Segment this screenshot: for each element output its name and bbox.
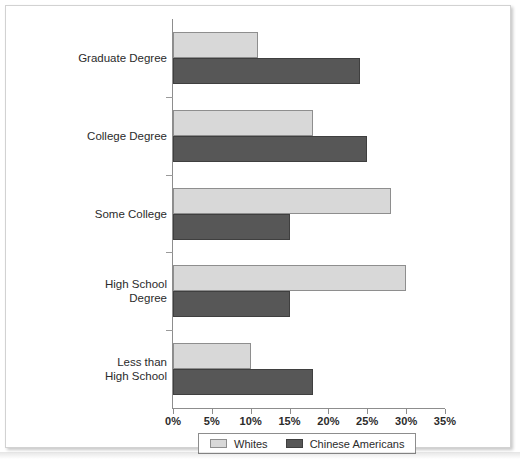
category-label: Graduate Degree xyxy=(78,51,167,65)
bar-whites xyxy=(173,110,313,136)
y-axis-tick xyxy=(166,252,173,253)
x-axis-tick-label: 25% xyxy=(356,415,378,427)
chart-legend: Whites Chinese Americans xyxy=(198,433,416,454)
x-axis-tick-label: 30% xyxy=(395,415,417,427)
legend-label-whites: Whites xyxy=(234,438,268,450)
x-axis-tick xyxy=(173,409,174,414)
bar-whites xyxy=(173,188,391,214)
x-axis-tick xyxy=(328,409,329,414)
bar-whites xyxy=(173,32,258,58)
x-axis-line xyxy=(172,408,445,409)
bar-chinese-americans xyxy=(173,58,360,84)
x-axis-tick xyxy=(406,409,407,414)
bar-chart: 0%5%10%15%20%25%30%35% Graduate DegreeCo… xyxy=(6,6,512,449)
x-axis-tick-label: 10% xyxy=(240,415,262,427)
category-label: Some College xyxy=(95,207,167,221)
x-axis-tick-label: 0% xyxy=(165,415,181,427)
legend-entry-chinese-americans[interactable]: Chinese Americans xyxy=(286,438,405,450)
x-axis-tick-label: 15% xyxy=(278,415,300,427)
legend-label-chinese-americans: Chinese Americans xyxy=(310,438,405,450)
x-axis-tick xyxy=(290,409,291,414)
legend-entry-whites[interactable]: Whites xyxy=(210,438,268,450)
bar-chinese-americans xyxy=(173,136,367,162)
category-label: College Degree xyxy=(87,129,167,143)
bar-chinese-americans xyxy=(173,291,290,317)
x-axis-tick xyxy=(212,409,213,414)
category-label: High School Degree xyxy=(105,277,167,305)
bar-whites xyxy=(173,343,251,369)
y-axis-tick xyxy=(166,97,173,98)
y-axis-tick xyxy=(166,175,173,176)
bar-chinese-americans xyxy=(173,214,290,240)
bar-chinese-americans xyxy=(173,369,313,395)
x-axis-tick xyxy=(367,409,368,414)
x-axis-tick-label: 35% xyxy=(434,415,456,427)
legend-swatch-chinese-americans-icon xyxy=(286,439,303,448)
x-axis-tick xyxy=(445,409,446,414)
x-axis-tick xyxy=(251,409,252,414)
figure-frame: 0%5%10%15%20%25%30%35% Graduate DegreeCo… xyxy=(5,5,511,448)
x-axis-tick-label: 20% xyxy=(317,415,339,427)
y-axis-tick xyxy=(166,330,173,331)
category-label: Less than High School xyxy=(105,355,167,383)
legend-swatch-whites-icon xyxy=(210,439,227,448)
bar-whites xyxy=(173,265,406,291)
x-axis-tick-label: 5% xyxy=(204,415,220,427)
